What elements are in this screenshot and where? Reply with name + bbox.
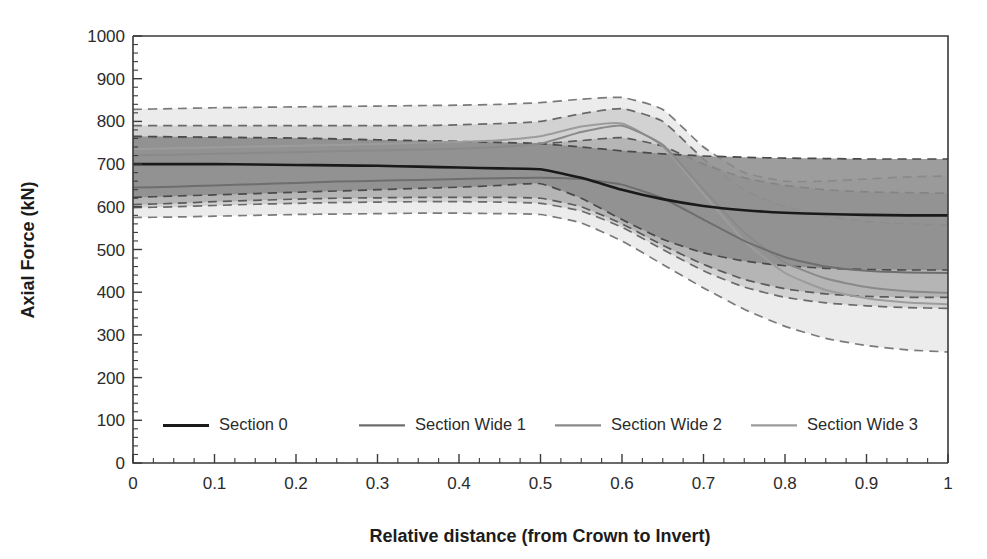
y-tick-label: 600 [97,198,125,217]
y-axis-title: Axial Force (kN) [18,181,38,318]
legend-label-section-wide-1: Section Wide 1 [415,415,526,433]
y-tick-label: 400 [97,283,125,302]
y-tick-label: 800 [97,112,125,131]
y-tick-label: 1000 [87,27,125,46]
x-tick-label: 0.4 [447,474,471,493]
y-tick-label: 700 [97,155,125,174]
legend-label-section-0: Section 0 [219,415,288,433]
x-tick-label: 0.8 [773,474,797,493]
axial-force-chart-figure: 0100200300400500600700800900100000.10.20… [0,0,987,559]
y-tick-label: 100 [97,411,125,430]
x-tick-label: 0.2 [284,474,308,493]
legend-label-section-wide-3: Section Wide 3 [807,415,918,433]
x-tick-label: 1 [943,474,952,493]
x-tick-label: 0.5 [529,474,553,493]
x-tick-label: 0.7 [692,474,716,493]
x-tick-label: 0.9 [855,474,879,493]
x-axis-title: Relative distance (from Crown to Invert) [369,526,710,546]
x-tick-label: 0.3 [366,474,390,493]
y-tick-label: 300 [97,326,125,345]
y-tick-label: 200 [97,369,125,388]
x-tick-label: 0.6 [610,474,634,493]
y-tick-label: 900 [97,70,125,89]
y-tick-label: 0 [116,454,125,473]
x-tick-label: 0 [128,474,137,493]
legend-label-section-wide-2: Section Wide 2 [611,415,722,433]
chart-legend: Section 0Section Wide 1Section Wide 2Sec… [163,415,918,433]
x-tick-label: 0.1 [203,474,227,493]
y-tick-label: 500 [97,241,125,260]
chart-canvas: 0100200300400500600700800900100000.10.20… [0,0,987,559]
